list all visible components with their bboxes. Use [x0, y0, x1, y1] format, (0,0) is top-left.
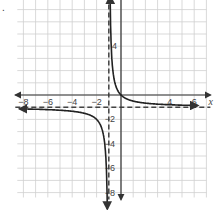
- left-branch-curve: [20, 109, 108, 209]
- x-tick-label: −6: [43, 97, 53, 107]
- y-tick-label: 4: [112, 41, 117, 51]
- y-tick-label: −2: [105, 114, 115, 124]
- x-tick-label: −8: [18, 97, 28, 107]
- x-tick-label: −4: [67, 97, 77, 107]
- right-branch-curve: [110, 0, 198, 105]
- y-tick-label: −4: [105, 139, 115, 149]
- x-tick-label: −2: [91, 97, 101, 107]
- y-tick-label: 8: [112, 0, 117, 2]
- x-axis-label: x: [207, 96, 213, 107]
- graph: xy −8−6−4−24684−2−4−6−8: [0, 0, 214, 210]
